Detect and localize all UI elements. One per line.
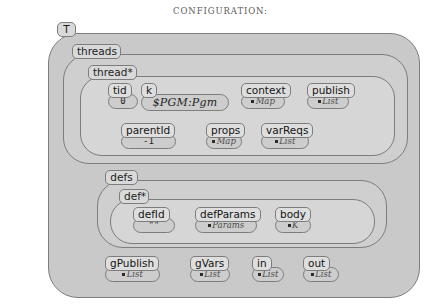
node-defParams-label: defParams [195, 207, 261, 222]
node-defId-label: defId [133, 207, 170, 222]
reference-bullet-icon [288, 224, 291, 227]
tab-threads[interactable]: threads [72, 44, 121, 59]
reference-bullet-icon [212, 140, 215, 143]
node-k-label: k [141, 83, 157, 98]
reference-bullet-icon [122, 273, 125, 276]
node-parentId-label: parentId [121, 123, 175, 138]
node-gVars-label: gVars [190, 256, 229, 271]
node-props-label: props [206, 123, 245, 138]
configuration-diagram: CONFIGURATION: T threads thread* tid 0 k… [0, 0, 441, 306]
reference-bullet-icon [275, 140, 278, 143]
node-context-label: context [241, 83, 291, 98]
tab-defs[interactable]: defs [105, 170, 138, 185]
tab-thread-star[interactable]: thread* [88, 65, 137, 80]
reference-bullet-icon [258, 273, 261, 276]
node-body-label: body [275, 207, 311, 222]
node-publish-label: publish [307, 83, 355, 98]
page-title: CONFIGURATION: [0, 6, 441, 16]
reference-bullet-icon [208, 224, 211, 227]
node-in-label: in [252, 256, 272, 271]
node-gPublish-label: gPublish [105, 256, 159, 271]
reference-bullet-icon [251, 100, 254, 103]
reference-bullet-icon [200, 273, 203, 276]
root-tab-label[interactable]: T [57, 22, 76, 37]
reference-bullet-icon [318, 100, 321, 103]
node-varReqs-label: varReqs [261, 123, 313, 138]
node-tid-label: tid [108, 83, 132, 98]
tab-def-star[interactable]: def* [119, 189, 149, 204]
node-k-value-text: $PGM:Pgm [153, 95, 218, 110]
node-out-label: out [303, 256, 330, 271]
reference-bullet-icon [311, 273, 314, 276]
